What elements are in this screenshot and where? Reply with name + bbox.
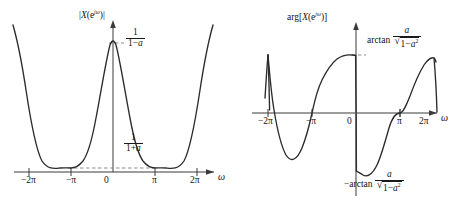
phase-ylabel-prefix: arg[	[287, 12, 302, 22]
phase-xtick-2pi: 2π	[419, 117, 429, 127]
phase-curve-zero-jump-left	[356, 56, 357, 113]
magnitude-xtick-zero: 0	[104, 176, 109, 186]
magnitude-xtick-2pi: 2π	[190, 176, 200, 186]
phase-top-radicand-lead: 1−	[401, 39, 411, 49]
magnitude-min-denominator-var: a	[136, 143, 141, 153]
magnitude-min-label: 1 1+a	[124, 133, 143, 154]
phase-ylabel-suffix: ]	[324, 12, 327, 22]
phase-bottom-label: −arctan a 1−a2	[344, 170, 404, 194]
magnitude-x-axis-arrow	[206, 169, 214, 175]
magnitude-ylabel: |X(ejω)|	[79, 9, 105, 21]
phase-xlabel: ω	[441, 113, 448, 124]
phase-top-label: arctan a 1−a2	[367, 26, 421, 50]
dtft-figure: |X(ejω)| 1 1−a 1 1+a −2π −π 0 π 2π ω arg…	[0, 0, 455, 209]
phase-ylabel: arg[X(ejω)]	[287, 11, 327, 23]
phase-xtick-neg2pi: −2π	[258, 117, 273, 127]
phase-bottom-radicand-exp: 2	[398, 182, 401, 188]
magnitude-peak-numerator: 1	[126, 28, 145, 38]
phase-curve-period-1	[268, 55, 356, 160]
magnitude-xtick-negpi: −π	[66, 176, 76, 186]
phase-curve-left-stub	[265, 55, 268, 98]
phase-xtick-zero: 0	[347, 117, 352, 127]
magnitude-min-numerator: 1	[124, 133, 143, 143]
phase-curve-right-drop	[434, 58, 437, 112]
magnitude-xtick-pi: π	[152, 176, 157, 186]
phase-bottom-label-prefix: −arctan	[344, 179, 373, 189]
magnitude-ylabel-suffix: |	[103, 10, 105, 20]
phase-top-radicand-exp: 2	[415, 38, 418, 44]
magnitude-xtick-neg2pi: −2π	[21, 176, 36, 186]
phase-bottom-radicand-lead: 1−	[383, 183, 393, 193]
magnitude-y-axis-arrow	[110, 20, 116, 28]
magnitude-peak-denominator-var: a	[138, 38, 143, 48]
magnitude-ylabel-open: (e	[87, 10, 94, 20]
phase-xtick-negpi: −π	[306, 117, 316, 127]
magnitude-peak-label: 1 1−a	[126, 28, 145, 49]
magnitude-xlabel: ω	[218, 172, 225, 183]
phase-top-label-prefix: arctan	[367, 35, 390, 45]
phase-x-axis-arrow	[429, 110, 437, 116]
phase-xtick-pi: π	[397, 117, 402, 127]
magnitude-peak-denominator-lead: 1−	[128, 38, 138, 48]
magnitude-min-denominator-lead: 1+	[126, 143, 136, 153]
magnitude-panel	[13, 20, 214, 176]
phase-y-axis-arrow	[353, 22, 359, 30]
